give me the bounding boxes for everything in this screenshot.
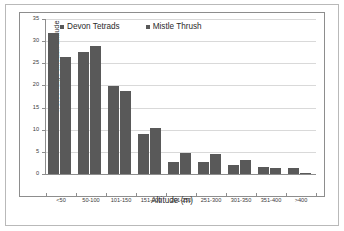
legend-label: Devon Tetrads [67,22,120,31]
y-tick-label: 10 [19,127,39,133]
bar-group [106,19,136,174]
bar-group [46,19,76,174]
y-gridline [46,174,316,175]
bar-devon-tetrads [138,134,149,174]
legend-label: Mistle Thrush [153,22,202,31]
bar-mistle-thrush [270,168,281,174]
y-tick-label: 15 [19,105,39,111]
x-axis-title: Altitude (m) [19,196,325,205]
y-tick-mark [42,108,45,109]
y-tick-mark [42,19,45,20]
bar-mistle-thrush [180,153,191,174]
square-marker-icon [60,25,64,29]
square-marker-icon [146,25,150,29]
chart-figure: Percentage at each altitude 051015202530… [0,0,344,231]
y-tick-mark [42,41,45,42]
y-tick-mark [42,85,45,86]
bar-devon-tetrads [198,162,209,174]
bar-mistle-thrush [150,128,161,174]
bar-mistle-thrush [60,57,71,174]
bar-devon-tetrads [78,52,89,174]
legend-entry-mistle-thrush[interactable]: Mistle Thrush [146,22,202,31]
bar-devon-tetrads [168,162,179,174]
y-tick-mark [42,152,45,153]
y-tick-mark [42,63,45,64]
bar-mistle-thrush [120,91,131,174]
bar-mistle-thrush [300,173,311,174]
bar-group [256,19,286,174]
y-tick-label: 30 [19,38,39,44]
y-tick-label: 35 [19,16,39,22]
y-tick-label: 5 [19,149,39,155]
bar-devon-tetrads [48,33,59,174]
chart-legend: Devon Tetrads Mistle Thrush [60,22,202,31]
bar-mistle-thrush [240,160,251,174]
bar-group [286,19,316,174]
y-tick-label: 20 [19,82,39,88]
bar-group [136,19,166,174]
bar-devon-tetrads [288,168,299,174]
y-tick-mark [42,174,45,175]
bar-group [76,19,106,174]
bar-group [226,19,256,174]
bar-devon-tetrads [228,165,239,174]
y-tick-mark [42,130,45,131]
bar-group [196,19,226,174]
bar-devon-tetrads [108,86,119,174]
bar-devon-tetrads [258,167,269,174]
legend-entry-devon-tetrads[interactable]: Devon Tetrads [60,22,120,31]
y-tick-label: 25 [19,60,39,66]
plot-area: 05101520253035<5050-100101-150151-200201… [46,19,316,174]
bar-mistle-thrush [90,46,101,174]
bar-mistle-thrush [210,154,221,174]
y-tick-label: 0 [19,171,39,177]
bar-group [166,19,196,174]
